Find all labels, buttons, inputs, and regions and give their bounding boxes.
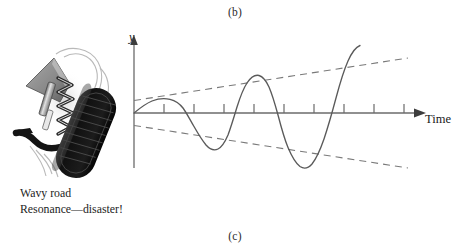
caption-line-1: Wavy road (20, 186, 123, 202)
suspension-illustration (8, 38, 123, 183)
y-axis-label: y (129, 30, 134, 45)
x-axis-ticks (164, 104, 404, 113)
figure-container: (b) (0, 0, 470, 252)
panel-label-b: (b) (0, 6, 470, 18)
caption-block: Wavy road Resonance—disaster! (20, 186, 123, 217)
lower-envelope (134, 126, 408, 169)
resonance-plot (120, 28, 470, 198)
control-arm (16, 133, 60, 149)
caption-line-2: Resonance—disaster! (20, 202, 123, 218)
panel-label-c: (c) (0, 230, 470, 242)
resonance-curve (134, 46, 360, 169)
x-axis-label: Time (425, 112, 451, 127)
